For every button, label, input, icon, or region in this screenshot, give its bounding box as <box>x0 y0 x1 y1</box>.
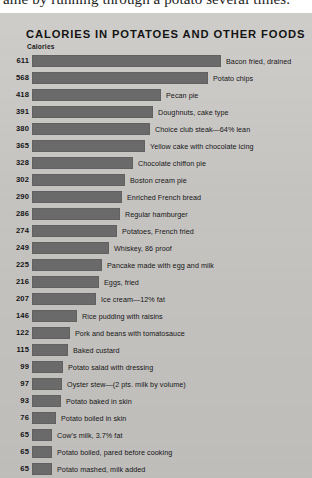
bar-row: 302Boston cream pie <box>0 172 312 189</box>
bar-rows: 611Bacon fried, drained568Potato chips41… <box>0 53 312 478</box>
bar-row: 122Pork and beans with tomatosauce <box>0 325 312 342</box>
bar-value-wrap: 611 <box>0 53 29 70</box>
bar-row: 249Whiskey, 86 proof <box>0 240 312 257</box>
bar-value-wrap: 380 <box>0 121 29 138</box>
bar <box>32 191 122 203</box>
chart-panel: CALORIES IN POTATOES AND OTHER FOODS Cal… <box>0 13 312 478</box>
chart-axis-label: Calories <box>27 43 55 50</box>
bar <box>32 310 77 322</box>
bar-value: 286 <box>1 209 29 218</box>
bar-value-wrap: 328 <box>0 155 29 172</box>
bar-value: 290 <box>1 192 29 201</box>
bar-label: Potato chips <box>213 74 253 83</box>
bar-row: 65Cow's milk, 3.7% fat <box>0 427 312 444</box>
bar-row: 365Yellow cake with chocolate icing <box>0 138 312 155</box>
bar-value: 216 <box>1 277 29 286</box>
figure-page: ame by running through a potato several … <box>0 0 312 478</box>
bar-value-wrap: 302 <box>0 172 29 189</box>
bar-value-wrap: 99 <box>0 359 29 376</box>
bar <box>32 344 68 356</box>
bar <box>32 157 133 169</box>
bar-value-wrap: 286 <box>0 206 29 223</box>
bar-label: Pork and beans with tomatosauce <box>75 329 185 338</box>
bar-value-wrap: 65 <box>0 461 29 478</box>
bar-value-wrap: 76 <box>0 410 29 427</box>
bar-label: Potatoes, French fried <box>122 227 194 236</box>
bar-value: 207 <box>1 294 29 303</box>
bar <box>32 55 221 67</box>
bar-value-wrap: 97 <box>0 376 29 393</box>
bar-row: 391Doughnuts, cake type <box>0 104 312 121</box>
bar-row: 225Pancake made with egg and milk <box>0 257 312 274</box>
bar <box>32 446 52 458</box>
bar-row: 65Potato mashed, milk added <box>0 461 312 478</box>
bar-value-wrap: 93 <box>0 393 29 410</box>
bar-value-wrap: 391 <box>0 104 29 121</box>
bar-value-wrap: 249 <box>0 240 29 257</box>
bar <box>32 123 150 135</box>
bar-row: 274Potatoes, French fried <box>0 223 312 240</box>
bar-row: 93Potato baked in skin <box>0 393 312 410</box>
bar-value-wrap: 365 <box>0 138 29 155</box>
bar-value: 115 <box>1 345 29 354</box>
bar-label: Ice cream—12% fat <box>101 295 165 304</box>
chart-title: CALORIES IN POTATOES AND OTHER FOODS <box>26 28 305 40</box>
page-body-text-strip: ame by running through a potato several … <box>0 0 312 13</box>
bar <box>32 276 99 288</box>
bar-value: 302 <box>1 175 29 184</box>
bar-row: 328Chocolate chiffon pie <box>0 155 312 172</box>
bar-value-wrap: 290 <box>0 189 29 206</box>
bar-label: Chocolate chiffon pie <box>138 159 206 168</box>
bar <box>32 106 153 118</box>
bar <box>32 72 208 84</box>
bar-value: 568 <box>1 73 29 82</box>
bar-row: 99Potato salad with dressing <box>0 359 312 376</box>
bar <box>32 378 62 390</box>
bar-row: 216Eggs, fried <box>0 274 312 291</box>
bar-value: 122 <box>1 328 29 337</box>
bar-label: Cow's milk, 3.7% fat <box>57 431 122 440</box>
bar-value-wrap: 122 <box>0 325 29 342</box>
bar-row: 611Bacon fried, drained <box>0 53 312 70</box>
bar-label: Oyster stew—(2 pts. milk by volume) <box>67 380 186 389</box>
bar-value: 93 <box>1 396 29 405</box>
bar <box>32 293 96 305</box>
bar-value: 611 <box>1 56 29 65</box>
bar-value: 225 <box>1 260 29 269</box>
bar-label: Rice pudding with raisins <box>82 312 163 321</box>
bar-value: 249 <box>1 243 29 252</box>
bar-value: 380 <box>1 124 29 133</box>
bar <box>32 242 109 254</box>
bar-value-wrap: 146 <box>0 308 29 325</box>
bar-value-wrap: 225 <box>0 257 29 274</box>
bar-label: Choice club steak—64% lean <box>155 125 250 134</box>
bar-label: Bacon fried, drained <box>226 57 291 66</box>
bar <box>32 174 125 186</box>
bar-label: Potato boiled in skin <box>61 414 126 423</box>
bar-value: 274 <box>1 226 29 235</box>
bar-row: 207Ice cream—12% fat <box>0 291 312 308</box>
bar-label: Potato baked in skin <box>66 397 132 406</box>
bar-label: Potato salad with dressing <box>68 363 153 372</box>
bar-value: 65 <box>1 464 29 473</box>
bar-value-wrap: 65 <box>0 427 29 444</box>
bar-row: 115Baked custard <box>0 342 312 359</box>
bar-value: 391 <box>1 107 29 116</box>
bar-value: 146 <box>1 311 29 320</box>
bar-value: 99 <box>1 362 29 371</box>
bar-label: Yellow cake with chocolate icing <box>150 142 254 151</box>
bar-value-wrap: 115 <box>0 342 29 359</box>
bar-row: 76Potato boiled in skin <box>0 410 312 427</box>
bar <box>32 208 120 220</box>
bar-value-wrap: 274 <box>0 223 29 240</box>
bar-value-wrap: 207 <box>0 291 29 308</box>
bar-label: Boston cream pie <box>130 176 187 185</box>
bar-value-wrap: 216 <box>0 274 29 291</box>
bar-row: 286Regular hamburger <box>0 206 312 223</box>
bar <box>32 412 56 424</box>
bar-label: Baked custard <box>73 346 120 355</box>
bar-value-wrap: 568 <box>0 70 29 87</box>
bar <box>32 395 61 407</box>
bar-row: 97Oyster stew—(2 pts. milk by volume) <box>0 376 312 393</box>
bar <box>32 463 52 475</box>
